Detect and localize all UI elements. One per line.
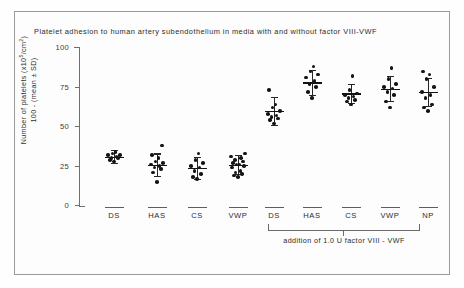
data-group-vwp-plain [218, 0, 258, 288]
sd-cap-upper [154, 153, 161, 154]
data-point [351, 74, 355, 78]
data-point [194, 158, 198, 162]
data-point [313, 79, 317, 83]
data-point [428, 73, 432, 77]
data-point [239, 156, 243, 160]
data-point [159, 167, 163, 171]
data-point [266, 112, 270, 116]
x-axis-tick [303, 207, 322, 208]
data-point [386, 90, 390, 94]
data-point [199, 172, 203, 176]
data-point [239, 169, 243, 173]
y-axis-tick-100 [75, 47, 80, 48]
data-point [310, 96, 314, 100]
data-point [276, 117, 280, 121]
data-point [242, 164, 246, 168]
y-axis-tick-label: 0 [43, 201, 69, 210]
x-axis-label-cs: CS [177, 211, 217, 220]
x-axis-label-has: HAS [292, 211, 332, 220]
x-axis-label-vwp: VWP [370, 211, 410, 220]
data-point [157, 156, 161, 160]
data-point [197, 152, 201, 156]
data-point [420, 90, 424, 94]
x-axis-tick [342, 207, 361, 208]
data-point [149, 163, 153, 167]
data-point [316, 73, 320, 77]
data-point [201, 161, 205, 165]
data-point [384, 100, 388, 104]
y-axis-tick-labels: 1007550250 [43, 0, 69, 288]
data-point [118, 153, 122, 157]
data-point [243, 152, 247, 156]
data-point [112, 160, 116, 164]
data-point [191, 175, 195, 179]
sd-cap-lower [154, 176, 161, 177]
x-axis-label-ds: DS [254, 211, 294, 220]
data-point [426, 109, 430, 113]
data-point [390, 66, 394, 70]
sd-cap-lower [111, 163, 118, 164]
y-axis-title-line-2: 100 - (mean ± SD) [29, 20, 39, 160]
data-point [392, 93, 396, 97]
x-axis-label-np: NP [408, 211, 448, 220]
x-axis-label-has: HAS [137, 211, 177, 220]
sd-cap-lower [271, 125, 278, 126]
panel-annotation-label: addition of 1.0 U factor VIII - VWF [268, 236, 420, 245]
data-group-ds-plain [94, 0, 134, 288]
y-axis-tick-label: 50 [43, 122, 69, 131]
data-point [382, 85, 386, 89]
data-point [241, 160, 245, 164]
data-point [268, 118, 272, 122]
data-group-cs-plain [177, 0, 217, 288]
data-point [114, 150, 118, 154]
data-point [229, 155, 233, 159]
data-point [421, 70, 425, 74]
x-axis-tick [105, 207, 124, 208]
y-axis-title: Number of platelets (x105/cm2) 100 - (me… [16, 20, 40, 160]
data-point [267, 88, 271, 92]
y-axis-tick-label: 100 [43, 43, 69, 52]
data-point [388, 106, 392, 110]
data-point [422, 106, 426, 110]
x-axis-tick [381, 207, 400, 208]
data-point [314, 85, 318, 89]
data-point [353, 98, 357, 102]
data-point [429, 93, 433, 97]
x-axis-tick [148, 207, 167, 208]
data-point [236, 175, 240, 179]
data-point [240, 172, 244, 176]
data-point [150, 153, 154, 157]
x-axis-label-ds: DS [94, 211, 134, 220]
data-point [349, 103, 353, 107]
sd-cap-upper [348, 84, 355, 85]
data-point [430, 103, 434, 107]
data-point [151, 171, 155, 175]
data-point [308, 82, 312, 86]
data-point [155, 180, 159, 184]
y-axis-tick-50 [75, 126, 80, 127]
x-axis-tick [419, 207, 438, 208]
mean-marker [303, 82, 322, 83]
data-point [189, 164, 193, 168]
data-point [343, 93, 347, 97]
x-axis-tick [188, 207, 207, 208]
x-axis-tick [229, 207, 248, 208]
data-point [306, 90, 310, 94]
y-axis-tick-label: 75 [43, 83, 69, 92]
data-point [158, 164, 162, 168]
figure-canvas: Platelet adhesion to human artery subend… [0, 0, 464, 288]
data-point [230, 166, 234, 170]
panel-bracket [268, 224, 420, 231]
x-axis-label-cs: CS [331, 211, 371, 220]
data-point [193, 169, 197, 173]
y-axis-title-line-1: Number of platelets (x105/cm2) [16, 20, 29, 160]
data-point [195, 177, 199, 181]
y-axis-tick-75 [75, 87, 80, 88]
data-point [233, 158, 237, 162]
data-point [345, 100, 349, 104]
data-point [304, 76, 308, 80]
data-point [272, 122, 276, 126]
data-point [274, 103, 278, 107]
data-point [161, 161, 165, 165]
data-point [231, 161, 235, 165]
